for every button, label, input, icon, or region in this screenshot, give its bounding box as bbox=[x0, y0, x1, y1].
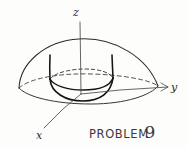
axis-y-line bbox=[81, 87, 168, 94]
problem-number: 9 bbox=[145, 122, 156, 142]
cylinder-top-ellipse-front bbox=[50, 78, 113, 90]
dome-base-ellipse-back bbox=[19, 74, 158, 88]
axis-label-y: y bbox=[170, 81, 178, 94]
axis-z-line bbox=[80, 22, 81, 94]
hemisphere-dome bbox=[19, 39, 158, 88]
diagram-svg: z y x PROBLEM 9 bbox=[0, 0, 187, 148]
axis-label-z: z bbox=[72, 6, 79, 19]
caption-label: PROBLEM bbox=[89, 127, 149, 141]
cylinder-wall-right bbox=[112, 55, 113, 78]
sketch-canvas: z y x PROBLEM 9 bbox=[0, 0, 187, 148]
axis-x-line bbox=[44, 94, 81, 128]
axis-label-x: x bbox=[36, 129, 43, 142]
